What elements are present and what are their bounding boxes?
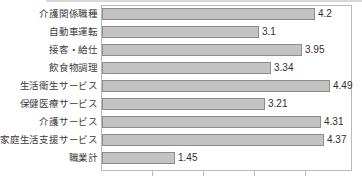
bar-row: 飲食物調理 3.34 [0, 59, 362, 77]
axis-tick [254, 170, 255, 176]
category-label: 接客・給仕 [49, 45, 98, 55]
bar-segment [102, 134, 324, 146]
bar-row: 職業計 1.45 [0, 149, 362, 167]
bar-segment [102, 62, 271, 74]
bar-value-label: 4.2 [315, 9, 332, 19]
bar-track: 3.34 [102, 62, 352, 74]
bar-row: 接客・給仕 3.95 [0, 41, 362, 59]
bar-segment [102, 98, 265, 110]
bar-value-label: 3.34 [271, 63, 293, 73]
bar-value-label: 3.21 [265, 99, 287, 109]
bar-track: 4.49 [102, 80, 352, 92]
bar-track: 4.37 [102, 134, 352, 146]
category-label: 家庭生活支援サービス [0, 135, 98, 145]
bar-segment [102, 26, 259, 38]
category-label: 介護サービス [39, 117, 98, 127]
bar-value-label: 1.45 [175, 153, 197, 163]
top-rule [46, 0, 362, 2]
category-label: 介護関係職種 [39, 9, 98, 19]
bar-value-label: 4.49 [330, 81, 352, 91]
category-label: 飲食物調理 [49, 63, 98, 73]
bar-row: 生活衛生サービス 4.49 [0, 77, 362, 95]
bar-track: 3.95 [102, 44, 352, 56]
category-label: 自動車運転 [49, 27, 98, 37]
bar-row: 介護サービス 4.31 [0, 113, 362, 131]
x-axis-ticks [101, 170, 352, 178]
bar-track: 3.21 [102, 98, 352, 110]
category-label: 生活衛生サービス [20, 81, 98, 91]
bar-segment [102, 116, 321, 128]
bar-track: 3.1 [102, 26, 352, 38]
bar-row: 保健医療サービス 3.21 [0, 95, 362, 113]
bar-rows: 介護関係職種 4.2 自動車運転 3.1 接客・給仕 3.95 飲食物調理 [0, 5, 362, 167]
bar-segment [102, 44, 302, 56]
bar-track: 1.45 [102, 152, 352, 164]
bar-track: 4.31 [102, 116, 352, 128]
category-label: 職業計 [69, 153, 98, 163]
bar-value-label: 3.1 [259, 27, 276, 37]
axis-tick [305, 170, 306, 176]
bar-value-label: 4.37 [324, 135, 346, 145]
bar-row: 介護関係職種 4.2 [0, 5, 362, 23]
bar-value-label: 4.31 [321, 117, 343, 127]
axis-tick [203, 170, 204, 176]
bar-chart: 介護関係職種 4.2 自動車運転 3.1 接客・給仕 3.95 飲食物調理 [0, 0, 362, 182]
axis-tick [152, 170, 153, 176]
bar-track: 4.2 [102, 8, 352, 20]
bar-row: 自動車運転 3.1 [0, 23, 362, 41]
bar-segment [102, 152, 175, 164]
bar-value-label: 3.95 [302, 45, 324, 55]
bar-segment [102, 80, 330, 92]
category-label: 保健医療サービス [20, 99, 98, 109]
bar-row: 家庭生活支援サービス 4.37 [0, 131, 362, 149]
bar-segment [102, 8, 315, 20]
